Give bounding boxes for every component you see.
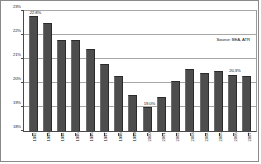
bar-slot	[69, 11, 83, 131]
bar-slot: 20.3%	[226, 11, 240, 131]
x-axis-label: 2004	[205, 132, 209, 141]
x-axis-label: 1992	[32, 132, 36, 141]
source-annotation: Source: BEA, ATR	[217, 38, 250, 42]
bar-slot	[183, 11, 197, 131]
x-axis-label: 1996	[90, 132, 94, 141]
bar[interactable]	[128, 95, 137, 131]
x-axis-label: 2003	[190, 132, 194, 141]
bar[interactable]	[200, 73, 209, 131]
y-axis-label: 21%	[13, 53, 21, 57]
bar[interactable]	[57, 40, 66, 131]
x-axis-label: 2002	[176, 132, 180, 141]
bar-slot: 22.8%	[26, 11, 40, 131]
plot-area: 18%19%20%21%22%23% 22.8%19.0%20.3% Sourc…	[23, 10, 257, 132]
x-axis-label: 1995	[75, 132, 79, 141]
bar[interactable]	[100, 64, 109, 131]
bar[interactable]	[157, 97, 166, 131]
x-axis-label: 2000	[147, 132, 151, 141]
x-axis-slot: 2007	[241, 133, 255, 163]
bar[interactable]	[71, 40, 80, 131]
bar[interactable]	[228, 75, 237, 131]
x-axis-slot: 2006	[226, 133, 240, 163]
x-axis-slot: 1995	[68, 133, 82, 163]
bar-slot	[126, 11, 140, 131]
bar[interactable]	[43, 23, 52, 131]
x-axis-slot: 1999	[126, 133, 140, 163]
y-axis-label: 19%	[13, 101, 21, 105]
x-axis-slot: 1996	[83, 133, 97, 163]
bar-series: 22.8%19.0%20.3%	[24, 11, 256, 131]
x-axis-label: 2001	[162, 132, 166, 141]
y-axis-label: 20%	[13, 77, 21, 81]
bar-slot	[240, 11, 254, 131]
x-axis-slot: 2005	[212, 133, 226, 163]
x-axis-slot: 2000	[140, 133, 154, 163]
y-axis-label: 23%	[13, 5, 21, 9]
y-axis-label: 18%	[13, 125, 21, 129]
bar-slot	[197, 11, 211, 131]
bar-slot	[112, 11, 126, 131]
x-axis-slot: 2002	[169, 133, 183, 163]
bar[interactable]	[214, 71, 223, 131]
x-axis-label: 2005	[219, 132, 223, 141]
chart-frame: 18%19%20%21%22%23% 22.8%19.0%20.3% Sourc…	[0, 0, 259, 162]
x-axis-label: 2006	[233, 132, 237, 141]
x-axis-slot: 2004	[198, 133, 212, 163]
bar[interactable]	[143, 107, 152, 131]
bar-slot	[154, 11, 168, 131]
x-axis-slot: 2001	[154, 133, 168, 163]
bar-slot	[211, 11, 225, 131]
x-axis-slot: 2003	[183, 133, 197, 163]
x-axis-label: 2007	[248, 132, 252, 141]
x-axis-slot: 1997	[97, 133, 111, 163]
bar-slot	[97, 11, 111, 131]
bar[interactable]	[185, 69, 194, 131]
bar[interactable]	[171, 81, 180, 131]
x-axis-ticks: 1992199319941995199619971998199920002001…	[23, 133, 257, 163]
bar[interactable]	[29, 16, 38, 131]
x-axis-slot: 1998	[111, 133, 125, 163]
bar-slot	[40, 11, 54, 131]
bar-slot: 19.0%	[140, 11, 154, 131]
x-axis-slot: 1993	[39, 133, 53, 163]
bar[interactable]	[242, 76, 251, 131]
x-axis-label: 1993	[47, 132, 51, 141]
bar[interactable]	[114, 76, 123, 131]
bar-slot	[83, 11, 97, 131]
x-axis-label: 1997	[104, 132, 108, 141]
bar-slot	[169, 11, 183, 131]
x-axis-slot: 1994	[54, 133, 68, 163]
bar-slot	[55, 11, 69, 131]
bar[interactable]	[86, 49, 95, 131]
x-axis-label: 1998	[118, 132, 122, 141]
x-axis-slot: 1992	[25, 133, 39, 163]
x-axis-label: 1994	[61, 132, 65, 141]
x-axis-label: 1999	[133, 132, 137, 141]
y-axis-label: 22%	[13, 29, 21, 33]
